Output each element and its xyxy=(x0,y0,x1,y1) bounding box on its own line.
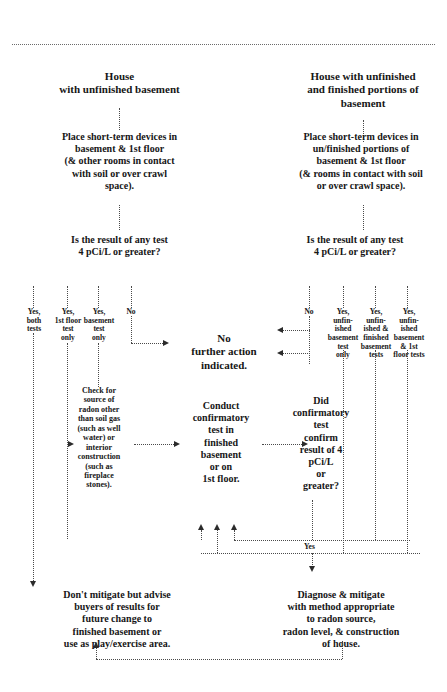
center-feed-line-1 xyxy=(201,530,202,540)
bottom-rail-right-drop xyxy=(342,641,343,659)
center-conduct-test: Conduct confirmatory test in finished ba… xyxy=(185,400,257,485)
right-header: House with unfinished and finished porti… xyxy=(288,70,438,110)
bottom-rail xyxy=(96,659,342,660)
center-conduct-to-confirm-arrowhead xyxy=(302,441,308,447)
right-connector-place-to-decision xyxy=(363,205,364,230)
left-header: House with unfinished basement xyxy=(12,70,227,97)
right-branch-line-2 xyxy=(343,286,344,308)
left-branch-line-3-cont xyxy=(98,343,99,387)
left-connector-header-to-place xyxy=(119,108,120,130)
left-connector-place-to-decision xyxy=(119,205,120,230)
left-check-to-conduct-arrowhead xyxy=(174,441,180,447)
flowchart-canvas: House with unfinished basement Place sho… xyxy=(0,0,447,692)
left-no-line-down xyxy=(131,316,132,343)
left-branch-line-1-cont xyxy=(33,333,34,581)
right-outcome-unfinished-and-1st-floor: Yes, unfin- ished basement & 1st floor t… xyxy=(386,308,432,360)
center-feed-rail-upper xyxy=(234,540,410,541)
right-no-line-to-center-upper xyxy=(283,330,310,331)
right-no-line-down xyxy=(309,316,310,364)
left-branch-line-4 xyxy=(131,286,132,308)
right-place-devices: Place short-term devices in un/finished … xyxy=(275,131,447,192)
left-final-dont-mitigate: Don't mitigate but advise buyers of resu… xyxy=(6,589,228,650)
right-branch-line-3 xyxy=(375,286,376,308)
right-branch-line-3-cont xyxy=(375,350,376,540)
left-check-to-conduct-line xyxy=(134,444,174,445)
center-yes-label: Yes xyxy=(302,542,317,551)
right-branch-line-4 xyxy=(407,286,408,308)
left-final-in-arrowhead xyxy=(30,581,36,587)
right-no-line-to-center-lower xyxy=(283,353,310,354)
left-place-devices: Place short-term devices in basement & 1… xyxy=(10,131,229,192)
left-no-line-to-center xyxy=(131,343,163,344)
right-no-arrowhead-upper xyxy=(277,327,283,333)
right-final-diagnose-mitigate: Diagnose & mitigate with method appropri… xyxy=(243,589,439,650)
left-decision: Is the result of any test 4 pCi/L or gre… xyxy=(12,234,227,258)
top-dotted-rule xyxy=(12,44,435,45)
right-no-arrowhead-lower xyxy=(277,350,283,356)
center-feed-rail-lower xyxy=(201,553,420,554)
right-branch-line-4-cont xyxy=(407,350,408,553)
right-branch-line-2-cont xyxy=(343,350,344,553)
center-conduct-to-confirm-line xyxy=(262,444,302,445)
left-check-source-in-arrowhead xyxy=(68,441,74,447)
right-branch-line-1 xyxy=(309,286,310,308)
center-yes-down-line xyxy=(312,553,313,567)
left-branch-line-2 xyxy=(67,286,68,308)
left-branch-line-3 xyxy=(98,286,99,308)
bottom-rail-arrowhead xyxy=(93,642,99,648)
center-yes-down-arrowhead xyxy=(309,566,315,572)
left-check-source: Check for source of radon other than soi… xyxy=(70,386,128,490)
left-branch-line-1 xyxy=(33,286,34,308)
confirm-yes-drop xyxy=(312,500,313,540)
center-feed-line-2 xyxy=(217,530,218,553)
left-outcome-basement-only: Yes, basement test only xyxy=(77,308,121,343)
right-decision: Is the result of any test 4 pCi/L or gre… xyxy=(263,234,447,258)
center-feed-line-3 xyxy=(234,530,235,540)
center-no-further-action: No further action indicated. xyxy=(164,332,284,372)
bottom-rail-left-rise xyxy=(96,648,97,659)
